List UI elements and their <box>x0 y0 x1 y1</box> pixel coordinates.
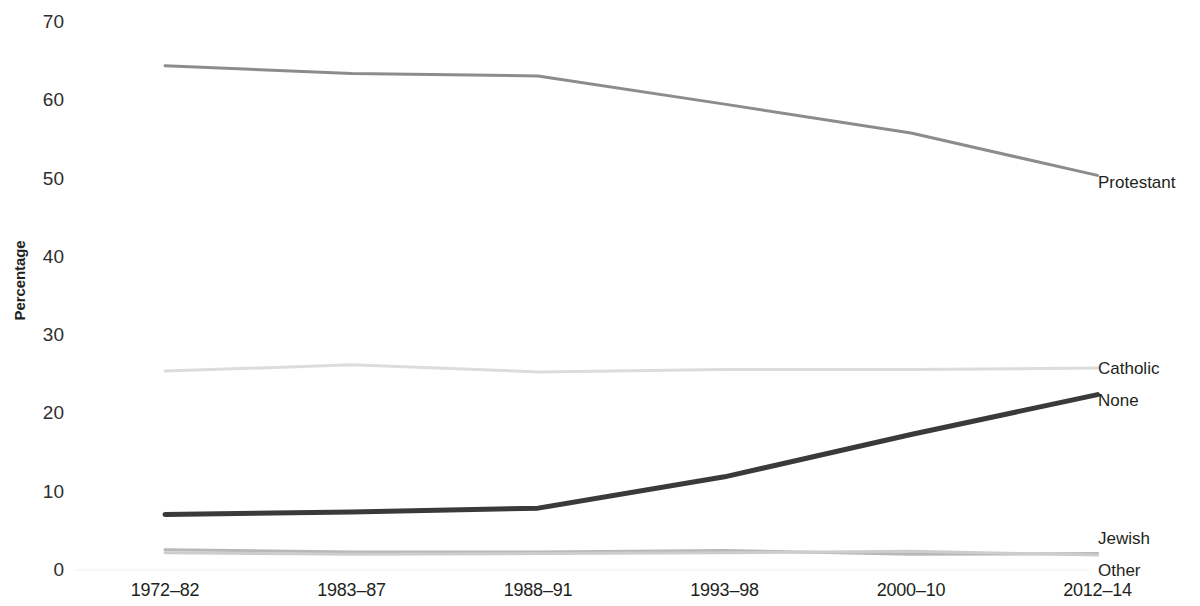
series-label-jewish: Jewish <box>1098 530 1150 547</box>
y-tick-label: 60 <box>18 90 64 109</box>
y-tick-label: 20 <box>18 403 64 422</box>
series-line-protestant <box>165 66 1098 176</box>
y-tick-label: 0 <box>18 560 64 579</box>
x-tick-label: 1993–98 <box>645 581 805 599</box>
series-line-none <box>165 395 1098 515</box>
y-tick-label: 30 <box>18 325 64 344</box>
y-axis-title: Percentage <box>11 226 28 336</box>
series-label-other: Other <box>1098 562 1141 579</box>
x-tick-label: 2000–10 <box>831 581 991 599</box>
y-tick-label: 40 <box>18 247 64 266</box>
x-tick-label: 1988–91 <box>458 581 618 599</box>
x-tick-label: 2012–14 <box>1018 581 1178 599</box>
series-label-protestant: Protestant <box>1098 174 1176 191</box>
series-line-catholic <box>165 365 1098 372</box>
y-tick-label: 70 <box>18 12 64 31</box>
y-tick-label: 50 <box>18 169 64 188</box>
x-tick-label: 1972–82 <box>85 581 245 599</box>
series-label-none: None <box>1098 392 1139 409</box>
line-chart: Percentage 010203040506070 1972–821983–8… <box>0 0 1200 606</box>
series-label-catholic: Catholic <box>1098 360 1159 377</box>
x-tick-label: 1983–87 <box>272 581 432 599</box>
chart-plot-area <box>0 0 1200 606</box>
y-tick-label: 10 <box>18 482 64 501</box>
